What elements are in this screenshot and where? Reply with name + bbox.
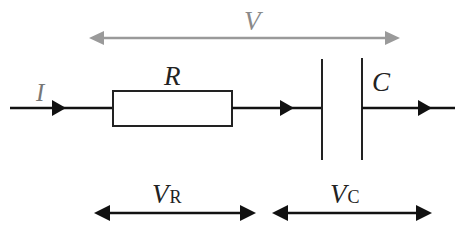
current-label: I xyxy=(35,79,46,106)
current-arrow-icon xyxy=(418,100,432,116)
circuit-svg: V I R C V xyxy=(0,0,463,234)
output-wire xyxy=(362,100,455,116)
current-arrow-icon xyxy=(280,100,294,116)
rc-circuit-diagram: V I R C V xyxy=(0,0,463,234)
current-arrow-icon xyxy=(52,100,66,116)
resistor-voltage-label: VR xyxy=(152,179,182,209)
total-voltage-label: V xyxy=(244,6,264,36)
resistor-voltage-arrow xyxy=(94,205,256,221)
capacitor-label: C xyxy=(372,67,391,97)
middle-wire xyxy=(232,100,322,116)
resistor xyxy=(113,91,232,126)
capacitor xyxy=(322,58,362,160)
resistor-label: R xyxy=(163,61,181,91)
input-wire xyxy=(10,100,113,116)
capacitor-voltage-arrow xyxy=(272,205,432,221)
capacitor-voltage-label: VC xyxy=(330,179,360,209)
